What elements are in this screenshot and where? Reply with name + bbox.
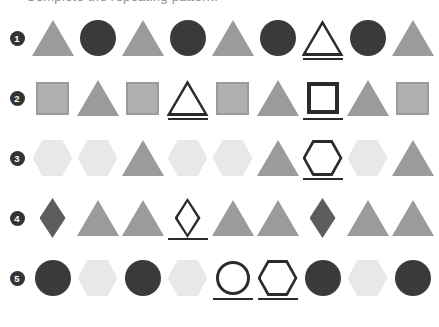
triangle-icon [77, 80, 119, 116]
shape-cell [75, 132, 120, 184]
row-number: 5 [4, 271, 30, 286]
circle-icon [350, 20, 386, 56]
triangle-icon [257, 140, 299, 176]
pattern-row: 1 [0, 8, 439, 68]
shape-cell [345, 252, 390, 304]
shape-track [30, 12, 439, 64]
shape-cell [30, 72, 75, 124]
shape-cell [210, 132, 255, 184]
shape-cell [345, 192, 390, 244]
square-icon [216, 82, 249, 115]
answer-slot[interactable] [165, 192, 210, 244]
shape-cell [390, 132, 435, 184]
triangle-icon [347, 200, 389, 236]
answer-blank-rule [303, 58, 343, 60]
answer-blank-rule [168, 238, 208, 240]
hexagon-icon [33, 140, 73, 176]
triangle-icon [122, 200, 164, 236]
circle-icon [395, 260, 431, 296]
answer-blank-rule [258, 298, 298, 300]
shape-track [30, 252, 439, 304]
pattern-row: 4 [0, 188, 439, 248]
shape-cell [255, 132, 300, 184]
shape-cell [30, 192, 75, 244]
shape-cell [165, 12, 210, 64]
triangle-icon [77, 200, 119, 236]
shape-cell [75, 192, 120, 244]
shape-cell [390, 12, 435, 64]
row-number: 3 [4, 151, 30, 166]
shape-cell [165, 132, 210, 184]
pattern-row: 2 [0, 68, 439, 128]
triangle-icon [212, 20, 254, 56]
pattern-row-list: 12345 [0, 8, 439, 308]
answer-blank-rule [303, 178, 343, 180]
circle-icon [80, 20, 116, 56]
row-number: 2 [4, 91, 30, 106]
triangle-icon [302, 20, 344, 56]
shape-cell [300, 192, 345, 244]
diamond-icon [310, 198, 336, 238]
hexagon-icon [213, 140, 253, 176]
shape-cell [210, 72, 255, 124]
shape-cell [120, 192, 165, 244]
square-icon [126, 82, 159, 115]
shape-cell [255, 12, 300, 64]
triangle-icon [32, 20, 74, 56]
shape-track [30, 72, 439, 124]
square-icon [396, 82, 429, 115]
answer-slot[interactable] [255, 252, 300, 304]
row-number-badge: 2 [10, 91, 25, 106]
triangle-icon [392, 20, 434, 56]
square-icon [36, 82, 69, 115]
answer-slot[interactable] [210, 252, 255, 304]
shape-cell [255, 192, 300, 244]
shape-cell [255, 72, 300, 124]
row-number-badge: 5 [10, 271, 25, 286]
answer-slot[interactable] [300, 132, 345, 184]
answer-slot[interactable] [300, 72, 345, 124]
triangle-icon [347, 80, 389, 116]
circle-icon [216, 261, 250, 295]
shape-cell [30, 132, 75, 184]
triangle-icon [392, 140, 434, 176]
row-number: 1 [4, 31, 30, 46]
shape-cell [75, 252, 120, 304]
hexagon-icon [348, 140, 388, 176]
shape-cell [210, 192, 255, 244]
shape-cell [165, 252, 210, 304]
shape-cell [345, 12, 390, 64]
shape-cell [30, 252, 75, 304]
shape-cell [390, 192, 435, 244]
shape-cell [210, 12, 255, 64]
triangle-icon [257, 80, 299, 116]
answer-blank-rule [303, 118, 343, 120]
answer-slot[interactable] [300, 12, 345, 64]
hexagon-icon [258, 260, 298, 296]
answer-blank-rule [168, 118, 208, 120]
circle-icon [35, 260, 71, 296]
diamond-icon [40, 198, 66, 238]
circle-icon [170, 20, 206, 56]
answer-slot[interactable] [165, 72, 210, 124]
hexagon-icon [348, 260, 388, 296]
hexagon-icon [168, 260, 208, 296]
shape-cell [75, 12, 120, 64]
triangle-icon [212, 200, 254, 236]
worksheet-heading: Complete the repeating pattern. [26, 0, 218, 4]
square-icon [307, 82, 339, 114]
shape-cell [300, 252, 345, 304]
triangle-icon [392, 200, 434, 236]
row-number-badge: 4 [10, 211, 25, 226]
row-number: 4 [4, 211, 30, 226]
circle-icon [260, 20, 296, 56]
triangle-icon [122, 140, 164, 176]
shape-cell [75, 72, 120, 124]
hexagon-icon [78, 260, 118, 296]
diamond-icon [175, 198, 201, 238]
circle-icon [305, 260, 341, 296]
shape-cell [390, 252, 435, 304]
shape-cell [390, 72, 435, 124]
shape-cell [120, 12, 165, 64]
shape-cell [120, 252, 165, 304]
